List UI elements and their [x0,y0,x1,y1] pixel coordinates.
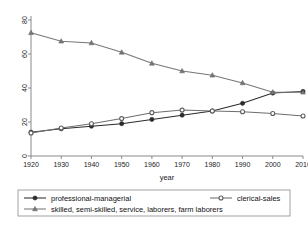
x-tick-label: 1920 [23,161,39,168]
x-tick-label: 1970 [174,161,190,168]
x-tick-label: 1990 [235,161,251,168]
legend-entry: skilled, semi-skilled, service, laborers… [24,205,223,214]
x-tick-label: 1930 [53,161,69,168]
x-axis-title: year [160,173,175,182]
x-tick-label: 1960 [144,161,160,168]
axes: 0204060801920193019401950196019701980199… [21,16,308,168]
y-tick-label: 40 [21,84,28,92]
x-axis-label: year [160,173,175,182]
x-tick-label: 2000 [265,161,281,168]
legend-label: skilled, semi-skilled, service, laborers… [51,205,223,214]
series-line-2 [29,30,306,94]
y-tick-label: 60 [21,50,28,58]
x-tick-label: 1940 [84,161,100,168]
y-tick-label: 20 [21,118,28,126]
x-tick-label: 2010 [295,161,308,168]
legend-label: clerical-sales [237,194,281,203]
x-tick-label: 1980 [205,161,221,168]
legend-label: professional-managerial [51,194,131,203]
chart-legend: professional-managerialclerical-salesski… [18,190,290,216]
series-layer [29,30,306,135]
x-tick-label: 1950 [114,161,130,168]
series-line-1 [29,108,305,135]
line-chart: 0204060801920193019401950196019701980199… [0,0,308,228]
legend-entry: clerical-sales [210,194,281,203]
y-tick-label: 80 [21,16,28,24]
y-tick-label: 0 [21,154,28,158]
figure-container: 0204060801920193019401950196019701980199… [0,0,308,228]
legend-entry: professional-managerial [24,194,131,203]
